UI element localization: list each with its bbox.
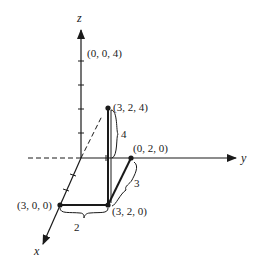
label-point-3-2-4: (3, 2, 4) (113, 101, 148, 114)
box-edges (60, 108, 131, 205)
coordinate-diagram: z y x 4 3 2 (0, 0, 4) (3, 2, 4) (0, 2, 0… (0, 0, 260, 264)
dim-label-z: 4 (121, 128, 127, 140)
point-0-2-0 (128, 155, 133, 160)
z-axis (78, 30, 84, 158)
y-axis-label: y (240, 151, 247, 165)
label-point-3-2-0: (3, 2, 0) (112, 205, 147, 218)
point-3-2-0 (105, 202, 110, 207)
x-axis-label: x (33, 244, 40, 258)
z-axis-label: z (76, 11, 82, 25)
label-point-3-0-0: (3, 0, 0) (17, 199, 52, 212)
brace-z (111, 110, 118, 158)
label-point-0-0-4: (0, 0, 4) (87, 47, 122, 60)
brace-y-run (112, 162, 137, 206)
diagonal-dashed-line (81, 116, 102, 158)
brace-x-side (60, 208, 108, 218)
point-3-0-0 (57, 202, 62, 207)
dim-label-y-run: 3 (134, 177, 140, 189)
label-point-0-2-0: (0, 2, 0) (133, 142, 168, 155)
dim-label-x-side: 2 (74, 221, 80, 233)
point-3-2-4 (105, 105, 110, 110)
